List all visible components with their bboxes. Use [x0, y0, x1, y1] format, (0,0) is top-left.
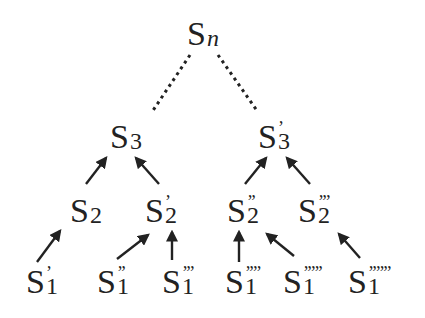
- node-base: S: [348, 263, 367, 300]
- node-base: S: [225, 263, 244, 300]
- node-base: S: [227, 192, 246, 229]
- arrow-s2c-to-s3-right: [245, 158, 266, 184]
- node-s-n: Sn: [187, 17, 219, 51]
- node-primes: ’: [165, 192, 170, 212]
- arrow-s2d-to-s3-right: [287, 158, 310, 184]
- node-primes: ’’’: [318, 192, 330, 212]
- tree-diagram: Sn S3 S3’ S2 S2’ S2’’ S2’’’ S1’ S1’’ S1’…: [0, 0, 425, 318]
- node-base: S: [283, 263, 302, 300]
- arrow-s2b-to-s3-left: [136, 158, 159, 184]
- node-primes: ’’’’’: [303, 263, 323, 283]
- node-s2-b: S2’: [145, 194, 170, 228]
- arrow-s1b-to-s2b: [117, 235, 148, 259]
- node-primes: ’’: [117, 263, 126, 283]
- node-subscript: 2: [90, 202, 102, 228]
- node-subscript: n: [207, 25, 219, 51]
- node-s1-b: S1’’: [97, 265, 126, 299]
- node-s2-a: S2: [70, 194, 102, 228]
- node-s2-d: S2’’’: [298, 194, 330, 228]
- node-s1-d: S1’’’’: [225, 265, 261, 299]
- node-base: S: [145, 192, 164, 229]
- node-primes: ’: [278, 118, 283, 138]
- node-primes: ’’’: [182, 263, 194, 283]
- node-s1-e: S1’’’’’: [283, 265, 323, 299]
- node-primes: ’: [46, 263, 51, 283]
- node-primes: ’’’’’’: [368, 263, 391, 283]
- node-base: S: [187, 15, 206, 52]
- node-base: S: [258, 118, 277, 155]
- node-s1-c: S1’’’: [162, 265, 194, 299]
- node-subscript: 3: [130, 128, 142, 154]
- dotted-edge-s3-left-to-root: [152, 55, 190, 112]
- node-s3-left: S3: [110, 120, 142, 154]
- node-primes: ’’’’: [245, 263, 261, 283]
- node-s3-right: S3’: [258, 120, 283, 154]
- node-primes: ’’: [247, 192, 256, 212]
- node-base: S: [110, 118, 129, 155]
- node-base: S: [26, 263, 45, 300]
- node-base: S: [162, 263, 181, 300]
- node-s1-f: S1’’’’’’: [348, 265, 391, 299]
- arrow-s1e-to-s2c: [267, 234, 294, 256]
- arrow-s1a-to-s2a: [37, 231, 60, 262]
- node-base: S: [70, 192, 89, 229]
- node-s1-a: S1’: [26, 265, 51, 299]
- arrow-s1f-to-s2d: [339, 234, 360, 258]
- arrow-s2a-to-s3-left: [86, 158, 106, 184]
- node-s2-c: S2’’: [227, 194, 256, 228]
- dotted-edge-s3-right-to-root: [218, 55, 258, 112]
- node-base: S: [298, 192, 317, 229]
- node-base: S: [97, 263, 116, 300]
